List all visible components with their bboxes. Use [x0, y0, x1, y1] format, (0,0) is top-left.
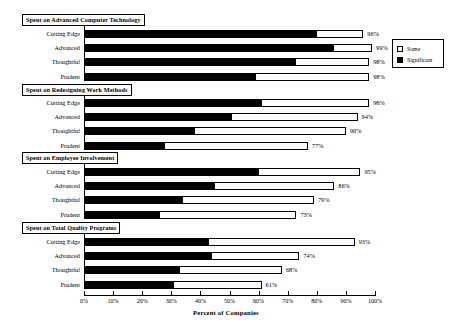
bar-category-label: Advanced: [0, 252, 80, 260]
bar-category-label: Cutting Edge: [0, 168, 80, 176]
bar-segment-significant: [84, 196, 183, 204]
chart-bar-row: Cutting Edge93%: [0, 238, 452, 246]
x-axis-tick: [375, 291, 376, 296]
bar-value-label: 68%: [286, 266, 298, 274]
bar-segment-significant: [84, 127, 195, 135]
chart-bar-row: Thoughtful90%: [0, 127, 452, 135]
bar-value-label: 94%: [362, 113, 374, 121]
bar-value-label: 86%: [338, 182, 350, 190]
bar-category-label: Advanced: [0, 113, 80, 121]
x-axis-tick: [113, 291, 114, 296]
bar-segment-significant: [84, 211, 160, 219]
legend-swatch-significant-icon: [397, 57, 403, 63]
bar-value-label: 98%: [373, 99, 385, 107]
bar-segment-significant: [84, 238, 209, 246]
bar-value-label: 61%: [266, 281, 278, 289]
chart-bar-row: Advanced86%: [0, 182, 452, 190]
legend-item-significant: Significant: [397, 54, 443, 65]
bar-segment-significant: [84, 266, 180, 274]
bar-category-label: Thoughtful: [0, 58, 80, 66]
x-axis-tick-label: 100%: [360, 298, 390, 305]
x-axis-tick-label: 80%: [302, 298, 332, 305]
bar-category-label: Prudent: [0, 281, 80, 289]
x-axis-tick: [84, 291, 85, 296]
panel-title: Spent on Advanced Computer Technology: [22, 14, 145, 26]
bar-category-label: Prudent: [0, 211, 80, 219]
bar-value-label: 90%: [350, 127, 362, 135]
bar-value-label: 79%: [318, 196, 330, 204]
x-axis-tick: [346, 291, 347, 296]
chart-bar-row: Prudent61%: [0, 281, 452, 289]
bar-value-label: 95%: [364, 168, 376, 176]
bar-segment-significant: [84, 142, 165, 150]
bar-category-label: Advanced: [0, 182, 80, 190]
bar-segment-significant: [84, 73, 256, 81]
bar-category-label: Prudent: [0, 73, 80, 81]
x-axis-tick-label: 70%: [273, 298, 303, 305]
bar-segment-significant: [84, 58, 296, 66]
bar-segment-significant: [84, 182, 215, 190]
x-axis-tick: [171, 291, 172, 296]
bar-segment-significant: [84, 113, 232, 121]
bar-category-label: Cutting Edge: [0, 238, 80, 246]
x-axis-tick: [142, 291, 143, 296]
chart-bar-row: Advanced74%: [0, 252, 452, 260]
x-axis-tick-label: 40%: [185, 298, 215, 305]
panel-title: Spent on Total Quality Programs: [22, 222, 120, 234]
bar-segment-significant: [84, 168, 259, 176]
chart-bar-row: Cutting Edge96%: [0, 30, 452, 38]
x-axis-tick-label: 10%: [98, 298, 128, 305]
chart-bar-row: Cutting Edge98%: [0, 99, 452, 107]
chart-bar-row: Advanced99%: [0, 44, 452, 52]
bar-segment-significant: [84, 44, 334, 52]
bar-category-label: Prudent: [0, 142, 80, 150]
bar-value-label: 93%: [359, 238, 371, 246]
x-axis-tick-label: 20%: [127, 298, 157, 305]
chart-bar-row: Prudent73%: [0, 211, 452, 219]
bar-value-label: 96%: [367, 30, 379, 38]
x-axis-tick-label: 30%: [156, 298, 186, 305]
chart-bar-row: Cutting Edge95%: [0, 168, 452, 176]
x-axis-tick: [230, 291, 231, 296]
panel-title: Spent on Employee Involvement: [22, 152, 118, 164]
bar-segment-significant: [84, 30, 317, 38]
bar-value-label: 98%: [373, 73, 385, 81]
x-axis-tick-label: 90%: [331, 298, 361, 305]
bar-value-label: 98%: [373, 58, 385, 66]
legend-label-some: Some: [407, 46, 420, 52]
x-axis-tick-label: 60%: [244, 298, 274, 305]
chart-bar-row: Prudent98%: [0, 73, 452, 81]
bar-value-label: 73%: [300, 211, 312, 219]
bar-category-label: Thoughtful: [0, 196, 80, 204]
chart-bar-row: Thoughtful79%: [0, 196, 452, 204]
chart-bar-row: Thoughtful68%: [0, 266, 452, 274]
legend-swatch-some-icon: [397, 46, 403, 52]
x-axis-label: Percent of Companies: [0, 309, 452, 316]
chart-bar-row: Thoughtful98%: [0, 58, 452, 66]
chart-bar-row: Advanced94%: [0, 113, 452, 121]
bar-category-label: Cutting Edge: [0, 30, 80, 38]
x-axis-tick-label: 0%: [69, 298, 99, 305]
chart-container: Spent on Advanced Computer TechnologyCut…: [0, 0, 452, 326]
x-axis-tick: [200, 291, 201, 296]
x-axis-tick: [317, 291, 318, 296]
bar-category-label: Advanced: [0, 44, 80, 52]
legend-item-some: Some: [397, 43, 443, 54]
legend-label-significant: Significant: [407, 57, 432, 63]
chart-legend: Some Significant: [392, 39, 444, 68]
bar-category-label: Thoughtful: [0, 266, 80, 274]
bar-value-label: 77%: [312, 142, 324, 150]
panel-title: Spent on Redesigning Work Methods: [22, 84, 132, 96]
chart-bar-row: Prudent77%: [0, 142, 452, 150]
x-axis-tick: [259, 291, 260, 296]
x-axis-tick-label: 50%: [215, 298, 245, 305]
bar-value-label: 74%: [303, 252, 315, 260]
bar-segment-significant: [84, 281, 174, 289]
x-axis-tick: [288, 291, 289, 296]
bar-category-label: Thoughtful: [0, 127, 80, 135]
bar-category-label: Cutting Edge: [0, 99, 80, 107]
bar-segment-significant: [84, 252, 212, 260]
bar-segment-significant: [84, 99, 262, 107]
bar-value-label: 99%: [376, 44, 388, 52]
